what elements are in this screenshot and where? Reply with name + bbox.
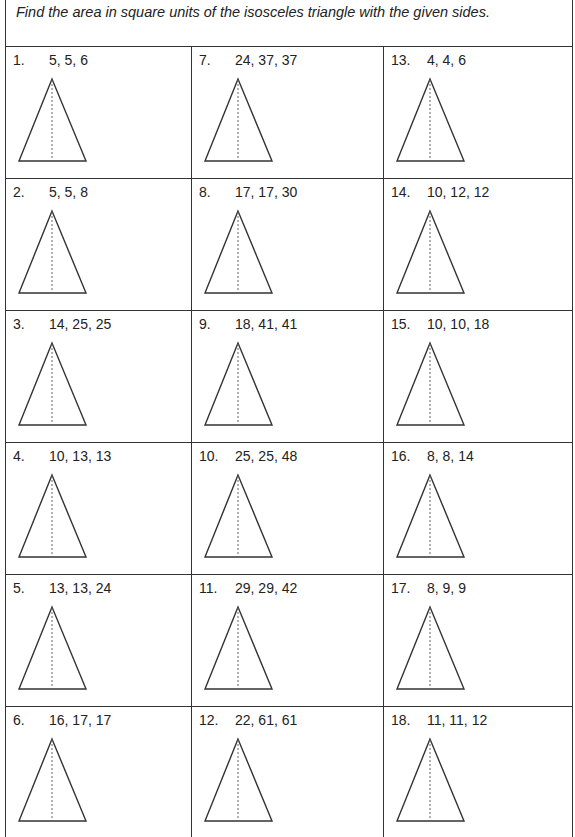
problem-sides: 5, 5, 8 [49,184,88,200]
problem-label: 17.8, 9, 9 [391,580,466,596]
isosceles-triangle-figure [16,605,90,697]
problem-label: 1.5, 5, 6 [13,52,88,68]
problem-cell: 6.16, 17, 17 [5,707,191,837]
problem-label: 10.25, 25, 48 [199,448,297,464]
isosceles-triangle-figure [16,737,90,829]
problem-sides: 10, 12, 12 [427,184,489,200]
problem-cell: 3.14, 25, 25 [5,311,191,442]
problem-cell: 9.18, 41, 41 [191,311,383,442]
problem-number: 7. [199,52,235,68]
problem-grid: 1.5, 5, 6 7.24, 37, 37 13.4, 4, 6 2.5, 5… [5,46,573,837]
problem-label: 12.22, 61, 61 [199,712,297,728]
problem-sides: 14, 25, 25 [49,316,111,332]
problem-sides: 5, 5, 6 [49,52,88,68]
isosceles-triangle-figure [16,341,90,433]
problem-sides: 8, 8, 14 [427,448,474,464]
instructions-box: Find the area in square units of the iso… [5,0,573,46]
problem-row: 1.5, 5, 6 7.24, 37, 37 13.4, 4, 6 [5,47,573,179]
isosceles-triangle-figure [394,341,468,433]
problem-label: 3.14, 25, 25 [13,316,111,332]
isosceles-triangle-figure [16,473,90,565]
isosceles-triangle-figure [202,341,276,433]
problem-number: 5. [13,580,49,596]
problem-label: 11.29, 29, 42 [199,580,297,596]
isosceles-triangle-figure [16,77,90,169]
problem-cell: 7.24, 37, 37 [191,47,383,178]
problem-sides: 10, 10, 18 [427,316,489,332]
problem-cell: 14.10, 12, 12 [383,179,573,310]
problem-label: 18.11, 11, 12 [391,712,487,728]
problem-row: 5.13, 13, 24 11.29, 29, 42 17.8, 9, 9 [5,575,573,707]
problem-label: 13.4, 4, 6 [391,52,466,68]
problem-sides: 25, 25, 48 [235,448,297,464]
problem-cell: 16.8, 8, 14 [383,443,573,574]
isosceles-triangle-figure [202,605,276,697]
problem-cell: 1.5, 5, 6 [5,47,191,178]
problem-label: 9.18, 41, 41 [199,316,297,332]
problem-number: 8. [199,184,235,200]
problem-sides: 24, 37, 37 [235,52,297,68]
problem-number: 3. [13,316,49,332]
problem-sides: 18, 41, 41 [235,316,297,332]
problem-number: 6. [13,712,49,728]
problem-label: 4.10, 13, 13 [13,448,111,464]
problem-number: 18. [391,712,427,728]
isosceles-triangle-figure [202,473,276,565]
problem-sides: 4, 4, 6 [427,52,466,68]
problem-sides: 10, 13, 13 [49,448,111,464]
problem-sides: 17, 17, 30 [235,184,297,200]
problem-label: 14.10, 12, 12 [391,184,489,200]
problem-cell: 2.5, 5, 8 [5,179,191,310]
problem-row: 6.16, 17, 17 12.22, 61, 61 18.11, 11, 12 [5,707,573,837]
isosceles-triangle-figure [394,473,468,565]
problem-number: 1. [13,52,49,68]
problem-label: 8.17, 17, 30 [199,184,297,200]
problem-label: 15.10, 10, 18 [391,316,489,332]
problem-cell: 12.22, 61, 61 [191,707,383,837]
problem-number: 9. [199,316,235,332]
isosceles-triangle-figure [394,737,468,829]
problem-cell: 15.10, 10, 18 [383,311,573,442]
problem-sides: 22, 61, 61 [235,712,297,728]
problem-number: 4. [13,448,49,464]
problem-number: 16. [391,448,427,464]
problem-sides: 29, 29, 42 [235,580,297,596]
problem-number: 14. [391,184,427,200]
problem-number: 10. [199,448,235,464]
isosceles-triangle-figure [202,209,276,301]
problem-cell: 8.17, 17, 30 [191,179,383,310]
isosceles-triangle-figure [202,77,276,169]
problem-sides: 13, 13, 24 [49,580,111,596]
isosceles-triangle-figure [16,209,90,301]
problem-row: 2.5, 5, 8 8.17, 17, 30 14.10, 12, 12 [5,179,573,311]
problem-cell: 5.13, 13, 24 [5,575,191,706]
problem-cell: 17.8, 9, 9 [383,575,573,706]
problem-number: 13. [391,52,427,68]
isosceles-triangle-figure [394,209,468,301]
isosceles-triangle-figure [394,77,468,169]
problem-cell: 13.4, 4, 6 [383,47,573,178]
problem-label: 7.24, 37, 37 [199,52,297,68]
problem-cell: 11.29, 29, 42 [191,575,383,706]
problem-label: 16.8, 8, 14 [391,448,474,464]
problem-sides: 16, 17, 17 [49,712,111,728]
isosceles-triangle-figure [394,605,468,697]
problem-label: 5.13, 13, 24 [13,580,111,596]
instructions-text: Find the area in square units of the iso… [16,4,490,20]
problem-number: 2. [13,184,49,200]
problem-sides: 8, 9, 9 [427,580,466,596]
problem-cell: 18.11, 11, 12 [383,707,573,837]
problem-cell: 10.25, 25, 48 [191,443,383,574]
problem-sides: 11, 11, 12 [427,712,487,728]
problem-number: 15. [391,316,427,332]
problem-row: 3.14, 25, 25 9.18, 41, 41 15.10, 10, 18 [5,311,573,443]
problem-label: 6.16, 17, 17 [13,712,111,728]
problem-number: 11. [199,580,235,596]
isosceles-triangle-figure [202,737,276,829]
problem-label: 2.5, 5, 8 [13,184,88,200]
problem-cell: 4.10, 13, 13 [5,443,191,574]
problem-row: 4.10, 13, 13 10.25, 25, 48 16.8, 8, 14 [5,443,573,575]
problem-number: 12. [199,712,235,728]
problem-number: 17. [391,580,427,596]
